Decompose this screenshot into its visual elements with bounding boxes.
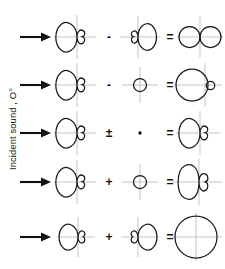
operator-minus-1: -	[100, 13, 118, 61]
equation-row-5: + =	[0, 213, 225, 261]
term-b-omni-small	[118, 61, 162, 109]
incident-sound-arrow	[18, 158, 52, 206]
result-hypercardioid	[172, 61, 224, 109]
term-b-cardioid-right	[118, 13, 162, 61]
result-subcardioid	[170, 158, 224, 206]
incident-sound-arrow	[18, 213, 52, 261]
result-cardioid-left	[172, 109, 224, 157]
term-a-cardioid-left	[52, 109, 98, 157]
term-b-omni-small	[118, 158, 162, 206]
incident-sound-arrow	[18, 61, 52, 109]
operator-plus-1: +	[100, 158, 118, 206]
term-a-cardioid-left	[52, 13, 98, 61]
term-b-point-zero	[118, 109, 162, 157]
operator-plus-2: +	[100, 213, 118, 261]
result-omni	[170, 213, 224, 261]
polar-pattern-diagram: Incident sound , O° - =	[0, 0, 225, 269]
operator-minus-2: -	[100, 61, 118, 109]
incident-sound-arrow	[18, 109, 52, 157]
incident-sound-arrow	[18, 13, 52, 61]
equation-row-3: ± =	[0, 109, 225, 157]
equation-row-4: + =	[0, 158, 225, 206]
term-a-cardioid-left	[52, 61, 98, 109]
equation-row-1: - =	[0, 13, 225, 61]
term-a-cardioid-left	[52, 158, 98, 206]
term-b-cardioid-right	[118, 213, 162, 261]
operator-plus-minus: ±	[100, 109, 118, 157]
equation-row-2: - =	[0, 61, 225, 109]
term-a-cardioid-left	[54, 213, 98, 261]
result-figure-eight	[176, 13, 224, 61]
